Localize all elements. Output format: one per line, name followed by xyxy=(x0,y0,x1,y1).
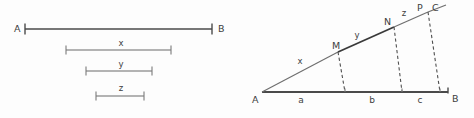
label-endpoint-b: B xyxy=(218,23,225,34)
segment-comparison-panel: A B x y z xyxy=(14,23,225,101)
label-ray-y: y xyxy=(354,30,359,40)
label-segment-x: x xyxy=(118,38,123,48)
label-point-p: P xyxy=(417,2,423,13)
ray-segment-y xyxy=(338,27,394,52)
label-point-m: M xyxy=(332,40,340,51)
geometry-figure: A B x y z xyxy=(0,0,474,118)
label-ray-x: x xyxy=(297,56,302,66)
segment-x: x xyxy=(66,38,171,55)
figure-canvas: A B x y z xyxy=(0,0,474,118)
label-base-a: a xyxy=(298,95,304,105)
label-segment-z: z xyxy=(119,83,124,93)
label-vertex-c: C xyxy=(432,2,439,13)
label-base-c: c xyxy=(418,95,423,105)
label-vertex-b: B xyxy=(452,93,459,104)
drop-line-n xyxy=(394,27,402,92)
label-endpoint-a: A xyxy=(14,23,21,34)
label-segment-y: y xyxy=(118,59,123,69)
label-base-b: b xyxy=(369,95,375,105)
label-vertex-a: A xyxy=(252,94,259,105)
segment-y: y xyxy=(86,59,152,76)
segment-ab: A B xyxy=(14,23,225,35)
triangle-projection-panel: A B C M N P x y z a b c xyxy=(252,2,459,105)
ray-segment-z xyxy=(394,12,428,27)
label-ray-z: z xyxy=(402,8,407,18)
label-point-n: N xyxy=(384,16,391,27)
segment-z: z xyxy=(96,83,144,101)
drop-line-p xyxy=(428,12,440,92)
drop-line-m xyxy=(338,52,345,92)
